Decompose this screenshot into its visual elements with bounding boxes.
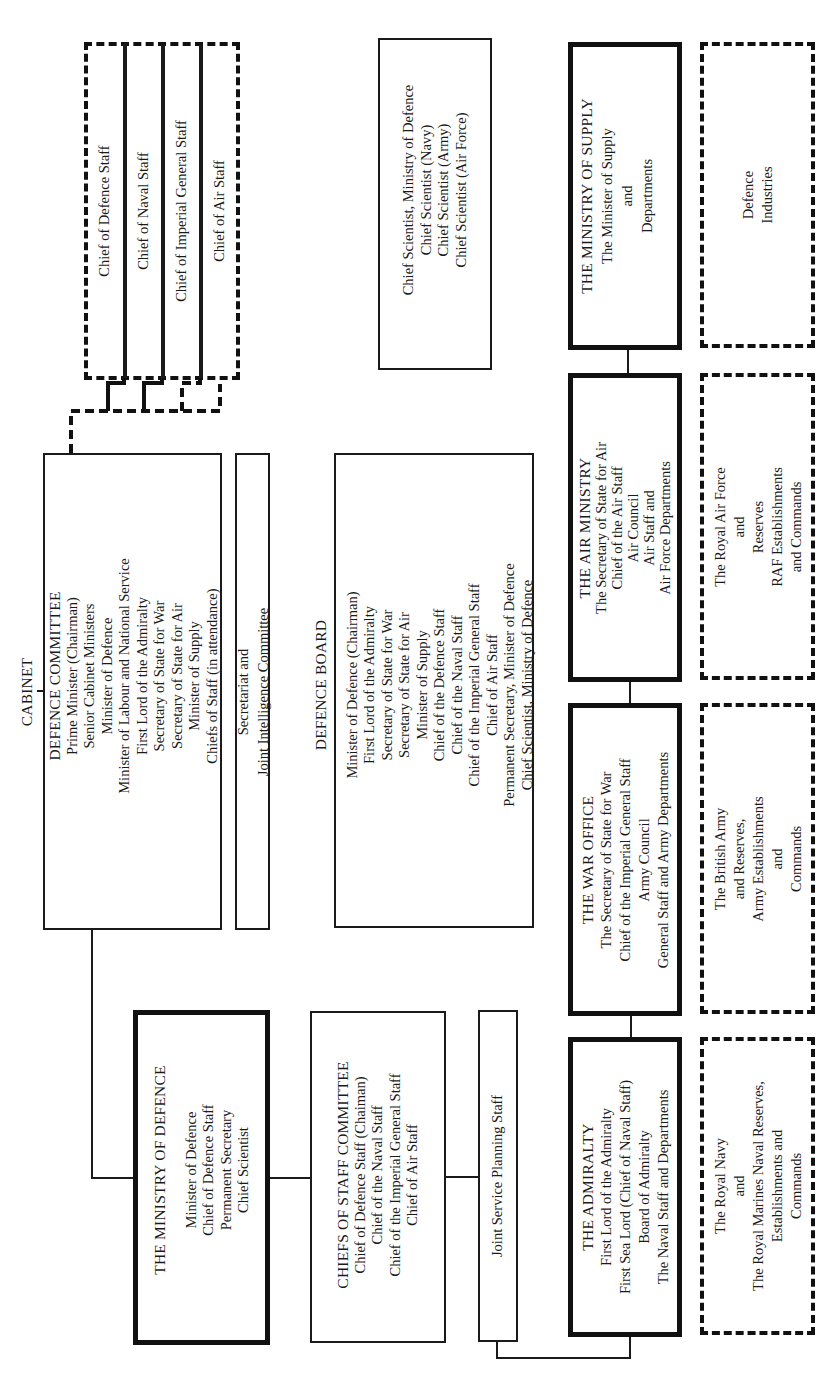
ministry-line: Departments — [637, 98, 657, 294]
ministry-line: and — [617, 98, 637, 294]
chief-scientists-box: Chief Scientist, Ministry of Defence Chi… — [378, 38, 492, 370]
ministry-line: First Lord of the Admiralty — [597, 1080, 616, 1294]
chief-label: Chief of Naval Staff — [135, 152, 153, 270]
member: Minister of Labour and National Service — [115, 558, 133, 794]
ministry-line: Air Staff and — [641, 442, 657, 614]
chief-of-imperial-general-staff: Chief of Imperial General Staff — [163, 44, 201, 378]
ministry-title: THE AIR MINISTRY — [577, 442, 593, 614]
secretariat-box: Secretariat and Joint Intelligence Commi… — [235, 453, 270, 930]
forces-line: RAF Establishments — [767, 467, 786, 587]
member: Chief of the Imperial General Staff — [387, 1061, 405, 1288]
cabinet-title: CABINET — [18, 657, 36, 726]
member: Chief Scientist — [235, 1065, 253, 1274]
forces-line: The Royal Navy — [710, 1081, 729, 1291]
ministry-line: Board of Admiralty — [635, 1080, 654, 1294]
forces-line: and Reserves, — [729, 796, 748, 921]
forces-line: Defence — [739, 166, 758, 223]
member: Secretary of State for War — [379, 563, 397, 806]
forces-line: and Commands — [786, 467, 805, 587]
scientist-line: Chief Scientist (Army) — [435, 85, 453, 296]
member: Minister of Defence (Chairman) — [344, 563, 362, 806]
ministry-line: Air Council — [625, 442, 641, 614]
chief-of-defence-staff: Chief of Defence Staff — [86, 44, 124, 378]
scientist-line: Chief Scientist (Air Force) — [453, 85, 471, 296]
joint-service-planning-box: Joint Service Planning Staff — [478, 1010, 518, 1342]
member: Chiefs of Staff (in attendance) — [203, 558, 221, 794]
ministry-title: THE MINISTRY OF SUPPLY — [577, 98, 597, 294]
forces-line: Commands — [786, 796, 805, 921]
ministry-title: THE ADMIRALTY — [578, 1080, 597, 1294]
member: First Lord of the Admiralty — [133, 558, 151, 794]
member: Minister of Supply — [414, 563, 432, 806]
member: Secretary of State for Air — [168, 558, 186, 794]
ministry-line: The Naval Staff and Departments — [654, 1080, 673, 1294]
forces-line: Establishments and — [767, 1081, 786, 1291]
ministry-line: The Minister of Supply — [597, 98, 617, 294]
scientist-line: Chief Scientist (Navy) — [418, 85, 436, 296]
chief-label: Chief of Defence Staff — [96, 145, 114, 276]
forces-line: Reserves — [748, 467, 767, 587]
army-forces-box: The British Army and Reserves, Army Esta… — [700, 703, 815, 1014]
ministry-line: Chief of the Air Staff — [609, 442, 625, 614]
defence-industries-box: Defence Industries — [700, 42, 815, 348]
chiefs-of-staff-committee-box: CHIEFS OF STAFF COMMITTEE Chief of Defen… — [310, 1011, 446, 1343]
forces-line: Army Establishments — [748, 796, 767, 921]
member: Permanent Secretary — [217, 1065, 235, 1274]
member: Minister of Defence — [182, 1065, 200, 1274]
defence-board-title: DEFENCE BOARD — [312, 563, 330, 806]
forces-line: The British Army — [710, 796, 729, 921]
ministry-line: Air Force Departments — [657, 442, 673, 614]
forces-line: and — [729, 1081, 748, 1291]
forces-line: and — [767, 796, 786, 921]
member: Chief of Air Staff — [404, 1061, 422, 1288]
member: Chief of the Imperial General Staff — [466, 563, 484, 806]
member: Prime Minister (Chairman) — [63, 558, 81, 794]
member: Senior Cabinet Ministers — [80, 558, 98, 794]
forces-line: and — [729, 467, 748, 587]
chief-label: Chief of Air Staff — [211, 160, 229, 262]
ministry-line: The Secretary of State for War — [597, 751, 616, 967]
member: Secretary of State for Air — [396, 563, 414, 806]
member: Minister of Supply — [185, 558, 203, 794]
ministry-line: Army Council — [635, 751, 654, 967]
ministry-of-supply-box: THE MINISTRY OF SUPPLY The Minister of S… — [568, 42, 682, 350]
forces-line: Industries — [758, 166, 777, 223]
raf-forces-box: The Royal Air Force and Reserves RAF Est… — [700, 373, 815, 680]
member: Permanent Secretary, Minister of Defence — [501, 563, 519, 806]
member: Chief of the Naval Staff — [369, 1061, 387, 1288]
ministry-line: The Secretary of State for Air — [593, 442, 609, 614]
forces-line: Commands — [786, 1081, 805, 1291]
jsps-label: Joint Service Planning Staff — [489, 1095, 507, 1257]
ministry-line: General Staff and Army Departments — [654, 751, 673, 967]
member: Chief of the Naval Staff — [449, 563, 467, 806]
chief-label: Chief of Imperial General Staff — [173, 120, 191, 302]
member: Secretary of State for War — [150, 558, 168, 794]
member: Chief of Defence Staff — [200, 1065, 218, 1274]
navy-forces-box: The Royal Navy and The Royal Marines Nav… — [700, 1037, 815, 1335]
defence-committee-title: DEFENCE COMMITTEE — [45, 558, 63, 794]
scientist-line: Chief Scientist, Ministry of Defence — [400, 85, 418, 296]
member: Minister of Defence — [98, 558, 116, 794]
defence-board-box: DEFENCE BOARD Minister of Defence (Chair… — [334, 453, 534, 928]
cos-title: CHIEFS OF STAFF COMMITTEE — [334, 1061, 352, 1288]
member: Chief of Defence Staff (Chaiman) — [352, 1061, 370, 1288]
ministry-line: First Sea Lord (Chief of Naval Staff) — [616, 1080, 635, 1294]
chief-of-air-staff: Chief of Air Staff — [201, 44, 239, 378]
secretariat-line: Secretariat and — [233, 607, 253, 775]
member: Chief Scientist, Ministry of Defence — [519, 563, 537, 806]
chief-of-naval-staff: Chief of Naval Staff — [125, 44, 163, 378]
forces-line: The Royal Air Force — [710, 467, 729, 587]
member: First Lord of the Admiralty — [361, 563, 379, 806]
ministry-title: THE WAR OFFICE — [578, 751, 597, 967]
member: Chief of Air Staff — [484, 563, 502, 806]
forces-line: The Royal Marines Naval Reserves, — [748, 1081, 767, 1291]
mod-title: THE MINISTRY OF DEFENCE — [151, 1065, 169, 1274]
secretariat-line: Joint Intelligence Committee — [253, 607, 273, 775]
air-ministry-box: THE AIR MINISTRY The Secretary of State … — [568, 373, 682, 682]
admiralty-box: THE ADMIRALTY First Lord of the Admiralt… — [568, 1037, 682, 1337]
defence-committee-box: DEFENCE COMMITTEE Prime Minister (Chairm… — [43, 453, 222, 930]
ministry-line: Chief of the Imperial General Staff — [616, 751, 635, 967]
war-office-box: THE WAR OFFICE The Secretary of State fo… — [568, 703, 682, 1016]
ministry-of-defence-box: THE MINISTRY OF DEFENCE Minister of Defe… — [133, 1010, 270, 1345]
member: Chief of the Defence Staff — [431, 563, 449, 806]
